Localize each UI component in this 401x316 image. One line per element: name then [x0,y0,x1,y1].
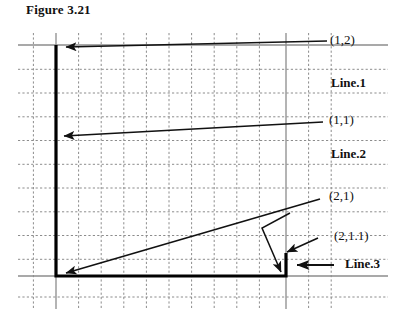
annotation-arrows [64,41,334,273]
label-point-1-2: (1,2) [330,32,355,48]
arrow-p12 [66,41,327,47]
bold-axis-path [56,45,286,276]
label-point-2-1: (2,1) [329,188,354,204]
label-point-2-1-1: (2,1.1) [334,228,369,244]
label-line-1: Line.1 [331,75,366,91]
arrow-p11 [64,122,323,136]
arrow-p211 [287,238,318,252]
label-point-1-1: (1,1) [329,112,354,128]
label-line-3: Line.3 [345,256,380,272]
bold-polyline [56,45,286,276]
arrow-p21 [66,199,320,273]
label-line-2: Line.2 [331,146,366,162]
